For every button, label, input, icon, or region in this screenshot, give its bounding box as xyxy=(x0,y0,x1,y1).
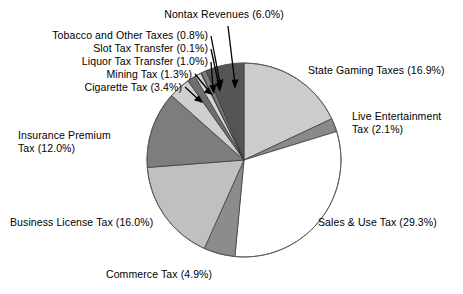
slice-label-insurance-premium-tax-line2: Tax (12.0%) xyxy=(18,142,148,155)
slice-label-live-entertainment-tax: Live Entertainment Tax (2.1%) xyxy=(352,110,458,135)
slice-label-insurance-premium-tax-line1: Insurance Premium xyxy=(18,129,148,142)
slice-label-slot-tax-transfer: Slot Tax Transfer (0.1%) xyxy=(12,42,208,55)
slice-label-live-entertainment-tax-line2: Tax (2.1%) xyxy=(352,123,458,136)
slice-label-tobacco-and-other-taxes: Tobacco and Other Taxes (0.8%) xyxy=(12,29,208,42)
slice-label-cigarette-tax: Cigarette Tax (3.4%) xyxy=(12,81,182,94)
slice-label-state-gaming-taxes: State Gaming Taxes (16.9%) xyxy=(308,64,463,77)
pie-chart-figure: State Gaming Taxes (16.9%)Live Entertain… xyxy=(0,0,463,294)
slice-label-sales-and-use-tax: Sales & Use Tax (29.3%) xyxy=(318,216,462,229)
slice-label-mining-tax: Mining Tax (1.3%) xyxy=(12,68,192,81)
slice-label-business-license-tax: Business License Tax (16.0%) xyxy=(10,216,158,229)
slice-label-insurance-premium-tax: Insurance Premium Tax (12.0%) xyxy=(18,129,148,154)
slice-label-commerce-tax: Commerce Tax (4.9%) xyxy=(106,268,246,281)
slice-label-live-entertainment-tax-line1: Live Entertainment xyxy=(352,110,458,123)
slice-label-liquor-tax-transfer: Liquor Tax Transfer (1.0%) xyxy=(12,55,208,68)
slice-label-nontax-revenues: Nontax Revenues (6.0%) xyxy=(138,8,310,21)
